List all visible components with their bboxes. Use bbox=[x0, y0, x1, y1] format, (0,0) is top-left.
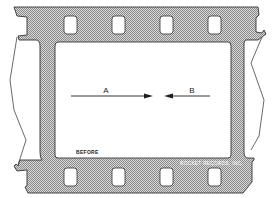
arrow-a: A bbox=[71, 86, 153, 99]
credit-text: ROCKET RECORDS, INC. bbox=[180, 161, 243, 166]
sprocket-hole bbox=[112, 168, 125, 186]
sprocket-hole bbox=[160, 16, 173, 34]
left-torn-edge bbox=[10, 37, 26, 168]
right-torn-edge bbox=[251, 37, 264, 150]
arrow-b: B bbox=[164, 86, 210, 99]
film-strip-diagram: A B BEFORE ROCKET RECORDS, INC. bbox=[0, 0, 279, 198]
arrow-a-head bbox=[144, 94, 153, 99]
sprocket-hole bbox=[112, 16, 125, 34]
caption-before: BEFORE bbox=[76, 149, 99, 155]
sprocket-hole bbox=[208, 16, 221, 34]
sprocket-hole bbox=[64, 16, 77, 34]
sprocket-hole bbox=[208, 168, 221, 186]
arrow-b-head bbox=[164, 94, 173, 99]
sprocket-hole bbox=[64, 168, 77, 186]
sprocket-hole bbox=[160, 168, 173, 186]
arrow-b-label: B bbox=[189, 86, 194, 95]
arrow-a-label: A bbox=[103, 86, 109, 95]
